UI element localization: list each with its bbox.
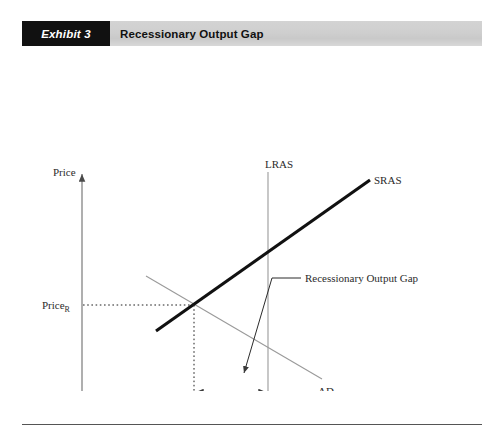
- exhibit-title: Recessionary Output Gap: [110, 28, 264, 40]
- exhibit-header: Exhibit 3 Recessionary Output Gap: [22, 21, 482, 46]
- footer-divider: [22, 424, 482, 425]
- sras-label: SRAS: [374, 174, 402, 186]
- exhibit-number-tag: Exhibit 3: [22, 21, 110, 46]
- recessionary-output-gap-label: Recessionary Output Gap: [305, 272, 419, 284]
- ad-label: ADR: [318, 385, 340, 391]
- as-ad-diagram: Price GDP PriceR GDPR GDPP LRAS SRAS ADR…: [0, 46, 502, 391]
- exhibit-title-bar: Recessionary Output Gap: [110, 21, 482, 46]
- y-axis-label: Price: [53, 166, 76, 178]
- ad-curve: [146, 276, 322, 379]
- exhibit-page: Exhibit 3 Recessionary Output Gap: [0, 0, 502, 441]
- lras-label: LRAS: [265, 158, 293, 170]
- price-r-tick-label: PriceR: [42, 299, 71, 314]
- chart-figure: Price GDP PriceR GDPR GDPP LRAS SRAS ADR…: [0, 46, 502, 391]
